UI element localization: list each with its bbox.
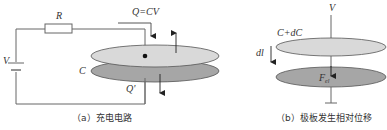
diagram-canvas: R V Q=CV C Q' （a）充电电路 V C+dC dl bbox=[0, 0, 387, 130]
capacitor-label: C bbox=[79, 65, 86, 76]
panel-a-charging-circuit: R V Q=CV C Q' （a）充电电路 bbox=[3, 6, 219, 123]
capacitance-label: C+dC bbox=[277, 27, 302, 38]
top-plate bbox=[91, 45, 219, 67]
circuit-wire bbox=[16, 29, 45, 62]
charge-top-label: Q=CV bbox=[132, 6, 161, 17]
caption-a: （a）充电电路 bbox=[72, 112, 132, 123]
displacement-label: dl bbox=[256, 47, 264, 58]
source-voltage-label: V bbox=[3, 55, 11, 66]
resistor-label: R bbox=[55, 10, 62, 21]
resistor-icon bbox=[45, 24, 72, 33]
junction-dot-icon bbox=[143, 54, 148, 59]
voltage-label: V bbox=[329, 2, 337, 13]
top-plate-b bbox=[276, 38, 386, 56]
panel-b-plate-displacement: V C+dC dl Fel （b）极板发生相对位移 bbox=[256, 2, 386, 123]
caption-b: （b）极板发生相对位移 bbox=[276, 112, 372, 123]
charge-bottom-label: Q' bbox=[126, 83, 136, 94]
